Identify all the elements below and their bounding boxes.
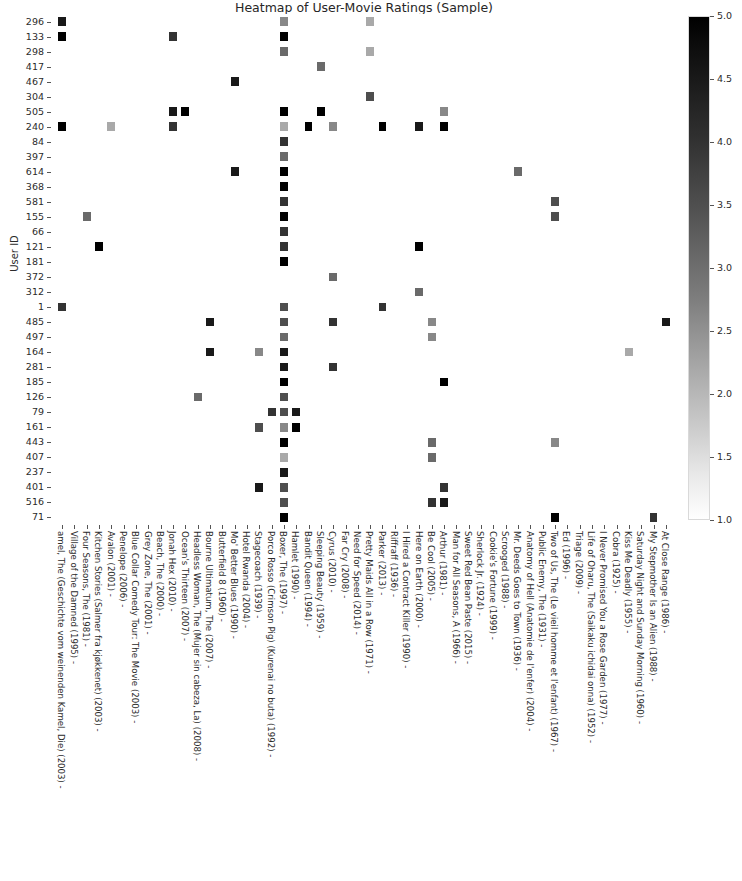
heatmap-cell <box>255 483 263 492</box>
heatmap-cell <box>169 107 177 116</box>
y-axis-tick-label: 397 <box>0 152 44 162</box>
x-axis-tick-label: Mo' Better Blues (1990) - <box>229 531 238 639</box>
x-axis-tick-label: Anatomy of Hell (Anatomie de l'enfer) (2… <box>525 531 534 731</box>
colorbar-tick-label: 3.5 <box>717 200 732 210</box>
y-axis-tick-mark <box>47 97 51 98</box>
x-axis-tick-mark <box>617 525 618 529</box>
y-axis-tick-label: 516 <box>0 497 44 507</box>
heatmap-cell <box>514 167 522 176</box>
x-axis-tick-label: Public Enemy, The (1931) - <box>537 531 546 647</box>
x-axis-tick-label: Hotel Rwanda (2004) - <box>241 531 250 628</box>
heatmap-cell <box>366 17 374 26</box>
heatmap-cell <box>280 197 288 206</box>
x-axis-tick-label: Life of Oharu, The (Saikaku ichidai onna… <box>586 531 595 743</box>
heatmap-cell <box>317 62 325 71</box>
heatmap-cell <box>280 408 288 417</box>
x-axis-tick-mark <box>358 525 359 529</box>
colorbar-tick-mark <box>710 205 714 206</box>
colorbar-tick-label: 3.0 <box>717 263 732 273</box>
heatmap-cell <box>280 498 288 507</box>
heatmap-cell <box>280 137 288 146</box>
heatmap-cell <box>329 122 337 131</box>
x-axis-tick-label: Bourne Ultimatum, The (2007) - <box>204 531 213 668</box>
y-axis-tick-mark <box>47 112 51 113</box>
y-axis-tick-label: 84 <box>0 137 44 147</box>
heatmap-cell <box>650 513 658 522</box>
y-axis-tick-label: 240 <box>0 122 44 132</box>
colorbar-tick-label: 1.5 <box>717 452 732 462</box>
x-axis-tick-label: Man for All Seasons, A (1966) - <box>451 531 460 664</box>
x-axis-tick-mark <box>346 525 347 529</box>
y-axis-tick-label: 401 <box>0 482 44 492</box>
y-axis-tick-label: 185 <box>0 377 44 387</box>
x-axis-tick-label: Kiss Me Deadly (1955) - <box>623 531 632 633</box>
heatmap-cell <box>440 378 448 387</box>
y-axis-tick-mark <box>47 517 51 518</box>
x-axis-tick-label: At Close Range (1986) - <box>660 531 669 633</box>
colorbar-tick-mark <box>710 142 714 143</box>
colorbar-tick-mark <box>710 331 714 332</box>
x-axis-tick-mark <box>567 525 568 529</box>
x-axis-tick-mark <box>666 525 667 529</box>
heatmap-cell <box>292 408 300 417</box>
heatmap-cell <box>280 438 288 447</box>
x-axis-tick-mark <box>407 525 408 529</box>
y-axis-tick-label: 614 <box>0 167 44 177</box>
x-axis-tick-mark <box>62 525 63 529</box>
x-axis-tick-mark <box>432 525 433 529</box>
x-axis-tick-mark <box>99 525 100 529</box>
y-axis-tick-mark <box>47 262 51 263</box>
y-axis-tick-mark <box>47 457 51 458</box>
y-axis-tick-label: 368 <box>0 182 44 192</box>
heatmap-cell <box>95 242 103 251</box>
colorbar-tick-label: 5.0 <box>717 11 732 21</box>
heatmap-cell <box>280 423 288 432</box>
x-axis-tick-label: Mr. Deeds Goes to Town (1936) - <box>512 531 521 671</box>
heatmap-cell <box>280 333 288 342</box>
y-axis-tick-mark <box>47 247 51 248</box>
y-axis-tick-mark <box>47 82 51 83</box>
y-axis-tick-mark <box>47 337 51 338</box>
y-axis-tick-label: 407 <box>0 452 44 462</box>
y-axis-tick-mark <box>47 157 51 158</box>
x-axis-tick-mark <box>419 525 420 529</box>
y-axis-tick-label: 485 <box>0 317 44 327</box>
x-axis-tick-mark <box>382 525 383 529</box>
x-axis-tick-mark <box>469 525 470 529</box>
x-axis-tick-mark <box>580 525 581 529</box>
heatmap-cell <box>280 257 288 266</box>
x-axis-tick-mark <box>444 525 445 529</box>
y-axis-tick-label: 79 <box>0 407 44 417</box>
heatmap-cell <box>280 348 288 357</box>
y-axis-tick-label: 1 <box>0 302 44 312</box>
x-axis-tick-label: Sherlock Jr. (1924) - <box>475 531 484 616</box>
heatmap-cell <box>366 92 374 101</box>
x-axis-tick-mark <box>395 525 396 529</box>
y-axis-tick-label: 71 <box>0 512 44 522</box>
y-axis-tick-labels: 2961332984174673045052408439761436858115… <box>0 14 44 525</box>
x-axis-tick-label: Sweet Red Bean Paste (2015) - <box>463 531 472 664</box>
colorbar-gradient <box>688 16 710 520</box>
x-axis-tick-label: Ed (1996) - <box>561 531 570 579</box>
x-axis-tick-label: Be Cool (2005) - <box>426 531 435 601</box>
y-axis-tick-mark <box>47 232 51 233</box>
x-axis-tick-mark <box>641 525 642 529</box>
heatmap-cell <box>428 453 436 462</box>
y-axis-tick-mark <box>47 352 51 353</box>
y-axis-tick-label: 443 <box>0 437 44 447</box>
heatmap-cell <box>428 498 436 507</box>
heatmap-cell <box>280 182 288 191</box>
heatmap-cell <box>305 122 313 131</box>
x-axis-tick-label: Riffraff (1936) - <box>389 531 398 597</box>
colorbar-tick-label: 2.0 <box>717 389 732 399</box>
x-axis-tick-label: Arthur (1981) - <box>438 531 447 595</box>
x-axis-tick-label: Avalon (2001) - <box>106 531 115 597</box>
x-axis-tick-mark <box>136 525 137 529</box>
heatmap-cell <box>206 348 214 357</box>
y-axis-tick-label: 296 <box>0 17 44 27</box>
y-axis-tick-mark <box>47 397 51 398</box>
x-axis-tick-mark <box>198 525 199 529</box>
y-axis-tick-label: 121 <box>0 242 44 252</box>
heatmap-cell <box>415 122 423 131</box>
x-axis-tick-label: Village of the Damned (1995) - <box>69 531 78 664</box>
